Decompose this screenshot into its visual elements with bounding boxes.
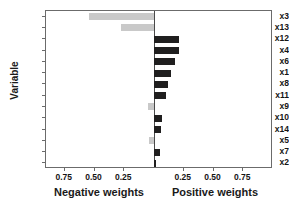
x-tick-mark-0.50	[94, 168, 95, 171]
bar-x5	[149, 137, 154, 144]
bar-x14	[154, 126, 161, 133]
bar-x1	[154, 70, 171, 77]
bar-x2	[154, 160, 156, 167]
bar-x8	[154, 81, 168, 88]
plot-area	[45, 10, 272, 168]
x-tick-label-0.75: 0.75	[222, 172, 262, 182]
x-tick-mark-0.25	[183, 168, 184, 171]
bar-x13	[121, 24, 154, 31]
x-tick-mark-0.75	[64, 168, 65, 171]
x-tick-label-0.25: 0.25	[103, 172, 143, 182]
x-axis-title-positive: Positive weights	[158, 186, 272, 198]
bar-x12	[154, 36, 179, 43]
bar-x3	[89, 13, 154, 20]
zero-axis-line	[154, 11, 155, 167]
bar-x6	[154, 58, 175, 65]
chart-figure: Variable x3x13x12x4x6x1x8x11x9x10x14x5x7…	[0, 0, 289, 209]
bar-x9	[148, 103, 154, 110]
x-tick-mark-0.50	[213, 168, 214, 171]
bar-x7	[154, 149, 160, 156]
y-axis-title: Variable	[9, 46, 20, 116]
bar-x4	[154, 47, 179, 54]
x-tick-mark-0.75	[242, 168, 243, 171]
x-axis-title-negative: Negative weights	[47, 186, 151, 198]
bar-x10	[154, 115, 162, 122]
x-tick-mark-0.25	[123, 168, 124, 171]
bar-x11	[154, 92, 166, 99]
